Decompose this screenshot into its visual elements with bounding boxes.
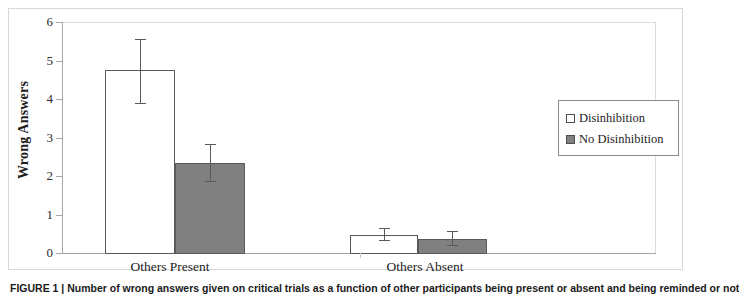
y-axis-tick bbox=[56, 99, 62, 100]
legend-label-no-disinhibition: No Disinhibition bbox=[579, 132, 663, 147]
error-bar-stem bbox=[210, 144, 211, 181]
error-bar-cap-bottom bbox=[205, 181, 216, 182]
y-axis-tick-label: 1 bbox=[13, 208, 53, 221]
legend: Disinhibition No Disinhibition bbox=[558, 100, 679, 156]
error-bar-stem bbox=[140, 39, 141, 104]
legend-item-disinhibition: Disinhibition bbox=[566, 108, 678, 129]
figure-caption: FIGURE 1 | Number of wrong answers given… bbox=[10, 282, 682, 295]
error-bar bbox=[418, 231, 487, 246]
error-bar bbox=[350, 228, 418, 241]
y-axis-tick bbox=[56, 215, 62, 216]
filled-square-icon bbox=[566, 135, 575, 144]
y-axis-tick bbox=[56, 176, 62, 177]
error-bar-stem bbox=[452, 231, 453, 246]
y-axis-tick bbox=[56, 22, 62, 23]
y-axis-tick bbox=[56, 253, 62, 254]
y-axis-tick-label: 0 bbox=[13, 246, 53, 259]
x-axis-separator bbox=[360, 253, 361, 258]
y-axis-tick bbox=[56, 61, 62, 62]
y-axis-line bbox=[62, 22, 63, 254]
error-bar-cap-top bbox=[205, 144, 216, 145]
error-bar-cap-bottom bbox=[135, 103, 146, 104]
legend-label-disinhibition: Disinhibition bbox=[579, 111, 645, 126]
open-square-icon bbox=[566, 114, 575, 123]
plot-top-border bbox=[62, 22, 656, 23]
y-axis-title: Wrong Answers bbox=[16, 60, 32, 200]
x-axis-label-others-present: Others Present bbox=[75, 259, 265, 275]
error-bar bbox=[175, 144, 245, 181]
error-bar bbox=[105, 39, 175, 104]
y-axis-tick-label: 6 bbox=[13, 15, 53, 28]
y-axis-tick bbox=[56, 138, 62, 139]
error-bar-cap-top bbox=[135, 39, 146, 40]
error-bar-cap-top bbox=[379, 228, 390, 229]
figure-caption-text: Number of wrong answers given on critica… bbox=[67, 282, 739, 294]
error-bar-cap-top bbox=[447, 231, 458, 232]
error-bar-cap-bottom bbox=[447, 245, 458, 246]
legend-item-no-disinhibition: No Disinhibition bbox=[566, 129, 678, 150]
x-axis-label-others-absent: Others Absent bbox=[330, 259, 520, 275]
error-bar-cap-bottom bbox=[379, 240, 390, 241]
figure-number: FIGURE 1 | bbox=[10, 282, 64, 294]
